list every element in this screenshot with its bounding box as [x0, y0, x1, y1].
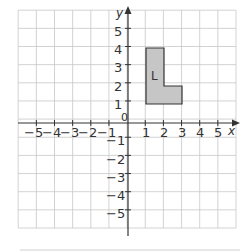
- x-tick-label: −2: [78, 125, 97, 140]
- y-tick-label: −5: [106, 206, 125, 221]
- y-tick-label: 1: [114, 97, 122, 112]
- y-tick-label: 2: [114, 79, 122, 94]
- x-tick-label: 5: [214, 125, 222, 140]
- y-tick-label: 4: [114, 42, 122, 57]
- x-tick-label: 4: [196, 125, 204, 140]
- x-tick-label: 3: [178, 125, 186, 140]
- x-tick-label: 2: [160, 125, 168, 140]
- y-tick-label: −3: [106, 170, 125, 185]
- y-tick-label: −4: [106, 188, 125, 203]
- y-tick-label: 5: [114, 24, 122, 39]
- y-tick-label: 3: [114, 60, 122, 75]
- shape-label: L: [151, 69, 158, 83]
- x-tick-label: 1: [142, 125, 150, 140]
- x-tick-label: −4: [42, 125, 61, 140]
- x-axis-label: x: [227, 124, 236, 138]
- coordinate-grid: L y x 0 −5 −4 −3 −2 −1 1 2 3 4 5 1 2 3 4…: [0, 0, 250, 252]
- y-tick-label: −1: [106, 133, 125, 148]
- x-tick-label: −3: [60, 125, 79, 140]
- x-tick-label: −5: [24, 125, 43, 140]
- y-tick-label: −2: [106, 152, 125, 167]
- y-axis-label: y: [115, 6, 124, 20]
- origin-label: 0: [121, 111, 128, 124]
